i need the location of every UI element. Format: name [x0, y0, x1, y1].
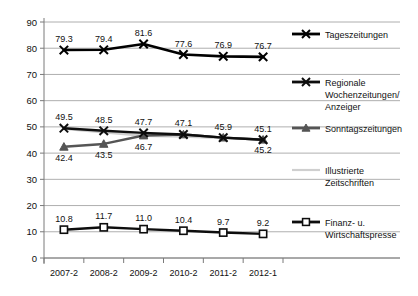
data-point-label: 10.8	[55, 214, 73, 224]
y-axis-tick-label: 50	[26, 121, 37, 132]
data-point-marker-square	[180, 227, 187, 234]
legend-label: Anzeiger	[325, 102, 361, 112]
legend-label: Regionale	[325, 78, 366, 88]
legend-item-0[interactable]: Tageszeitungen	[292, 30, 388, 40]
x-axis-category-label: 2011-2	[210, 268, 237, 278]
y-axis-tick-label: 0	[32, 253, 37, 264]
legend-label: Finanz- u.	[325, 218, 365, 228]
y-axis-tick-label: 60	[26, 95, 37, 106]
data-point-label: 45.1	[254, 124, 272, 134]
data-point-marker-square	[303, 219, 310, 226]
y-axis-tick-labels: 0102030405060708090	[26, 17, 37, 264]
y-axis-tick-label: 30	[26, 174, 37, 185]
y-axis-tick-label: 10	[26, 226, 37, 237]
data-point-label: 10.4	[175, 215, 193, 225]
legend-item-2[interactable]: Sonntagszeitungen	[292, 124, 402, 134]
x-axis-category-label: 2012-1	[249, 268, 277, 278]
data-point-marker-square	[100, 224, 107, 231]
data-point-marker-square	[140, 226, 147, 233]
data-point-label: 79.3	[55, 34, 73, 44]
data-point-label: 48.5	[95, 115, 113, 125]
x-axis-category-label: 2007-2	[50, 268, 78, 278]
data-point-marker-square	[60, 226, 67, 233]
y-axis-tick-label: 80	[26, 43, 37, 54]
chart-canvas: 0102030405060708090 2007-22008-22009-220…	[0, 0, 418, 296]
data-point-marker-square	[220, 229, 227, 236]
data-point-label: 45.2	[254, 145, 272, 155]
legend-label: Wirtschaftspresse	[325, 230, 397, 240]
data-point-label: 11.0	[135, 213, 152, 223]
x-axis-category-label: 2010-2	[169, 268, 197, 278]
y-axis-tick-label: 40	[26, 148, 37, 159]
legend-item-1[interactable]: RegionaleWochenzeitungen/Anzeiger	[292, 78, 400, 112]
series-lines-group	[60, 40, 268, 238]
data-point-label: 79.4	[95, 34, 113, 44]
legend-label: Tageszeitungen	[325, 30, 388, 40]
line-chart: 0102030405060708090 2007-22008-22009-220…	[0, 0, 418, 296]
x-axis-category-labels: 2007-22008-22009-22010-22011-22012-1	[50, 268, 277, 278]
legend-label: Wochenzeitungen/	[325, 90, 400, 100]
y-axis-tick-label: 70	[26, 69, 37, 80]
x-axis-category-label: 2008-2	[90, 268, 118, 278]
data-point-label: 42.4	[55, 153, 73, 163]
data-point-label: 47.1	[175, 118, 193, 128]
data-point-label: 81.6	[135, 28, 153, 38]
data-point-label: 49.5	[55, 112, 73, 122]
x-axis-category-label: 2009-2	[130, 268, 158, 278]
legend-item-3[interactable]: IllustrierteZeitschriften	[292, 166, 374, 188]
series-0	[60, 40, 268, 61]
data-point-label: 45.9	[214, 122, 232, 132]
legend-label: Zeitschriften	[325, 178, 374, 188]
y-axis-tick-label: 90	[26, 17, 37, 28]
series-line	[64, 227, 263, 234]
data-point-marker-square	[259, 230, 266, 237]
legend-label: Sonntagszeitungen	[325, 124, 402, 134]
legend-item-4[interactable]: Finanz- u.Wirtschaftspresse	[292, 218, 397, 240]
data-point-labels-group: 79.379.481.677.676.976.749.548.547.747.1…	[55, 28, 272, 228]
legend: TageszeitungenRegionaleWochenzeitungen/A…	[292, 30, 402, 240]
data-point-label: 76.7	[254, 41, 272, 51]
y-axis-tick-label: 20	[26, 200, 37, 211]
data-point-label: 9.2	[257, 218, 270, 228]
data-point-label: 77.6	[175, 39, 193, 49]
series-line	[64, 128, 263, 140]
series-line	[64, 44, 263, 57]
data-point-label: 9.7	[217, 217, 230, 227]
data-point-label: 43.5	[95, 150, 113, 160]
data-point-label: 76.9	[214, 40, 232, 50]
series-4	[60, 224, 266, 238]
legend-label: Illustrierte	[325, 166, 364, 176]
data-point-label: 11.7	[95, 211, 112, 221]
data-point-label: 46.7	[135, 142, 153, 152]
data-point-label: 47.7	[135, 117, 153, 127]
